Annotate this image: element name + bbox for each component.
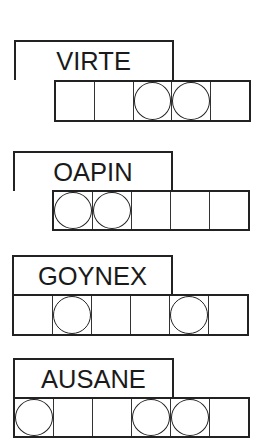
circle-marker-icon (170, 296, 208, 334)
answer-cell[interactable] (210, 192, 248, 229)
answer-cell[interactable] (14, 296, 53, 334)
answer-cells (12, 294, 249, 336)
answer-cell[interactable] (54, 399, 93, 436)
answer-cell[interactable] (171, 192, 210, 229)
scrambled-word-box: OAPIN (13, 151, 173, 191)
answer-cells (13, 397, 250, 438)
answer-cell[interactable] (56, 82, 95, 120)
answer-cell-circled[interactable] (134, 82, 173, 120)
answer-cell-circled[interactable] (171, 399, 210, 436)
answer-cell-circled[interactable] (15, 399, 54, 436)
answer-cell[interactable] (210, 399, 248, 436)
answer-cell[interactable] (211, 82, 249, 120)
scrambled-word: AUSANE (41, 365, 146, 394)
answer-cell[interactable] (132, 192, 171, 229)
circle-marker-icon (171, 399, 209, 436)
circle-marker-icon (93, 192, 131, 229)
circle-marker-icon (172, 82, 210, 120)
scrambled-word-box: AUSANE (13, 358, 174, 398)
circle-marker-icon (15, 399, 53, 436)
circle-marker-icon (54, 192, 92, 229)
answer-cell[interactable] (92, 296, 131, 334)
scrambled-word: OAPIN (53, 158, 132, 187)
answer-cell-circled[interactable] (172, 82, 211, 120)
answer-cells (54, 80, 251, 122)
answer-cell-circled[interactable] (93, 192, 132, 229)
answer-cell-circled[interactable] (170, 296, 209, 334)
circle-marker-icon (132, 399, 170, 436)
circle-marker-icon (53, 296, 91, 334)
scrambled-word-box: VIRTE (14, 40, 174, 80)
answer-cells (52, 190, 250, 231)
answer-cell[interactable] (209, 296, 247, 334)
circle-marker-icon (134, 82, 172, 120)
answer-cell-circled[interactable] (53, 296, 92, 334)
answer-cell[interactable] (93, 399, 132, 436)
scrambled-word: GOYNEX (38, 262, 147, 291)
answer-cell-circled[interactable] (132, 399, 171, 436)
answer-cell-circled[interactable] (54, 192, 93, 229)
scrambled-word-box: GOYNEX (12, 255, 173, 295)
answer-cell[interactable] (95, 82, 134, 120)
answer-cell[interactable] (131, 296, 170, 334)
scrambled-word: VIRTE (57, 47, 132, 76)
